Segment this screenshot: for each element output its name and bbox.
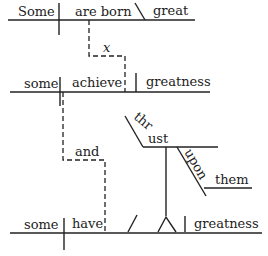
- clause-3-slash: [128, 215, 137, 232]
- connector-and-line: [63, 92, 105, 232]
- prep-object-label: them: [215, 172, 249, 187]
- connector-x-label: x: [103, 40, 111, 55]
- clause-3-object: greatness: [194, 216, 259, 231]
- connector-and: and: [63, 92, 105, 232]
- participle-label: ust: [148, 131, 169, 146]
- clause-1-subject: Some: [18, 4, 55, 19]
- clause-2-object: greatness: [146, 74, 211, 89]
- clause-1-complement-divider: [135, 3, 145, 20]
- preposition-label: upon: [181, 146, 211, 183]
- clause-3-verb: have: [72, 216, 103, 231]
- clause-3: some have greatness: [10, 215, 262, 250]
- participle-label-slanted: thr: [131, 109, 156, 134]
- clause-2-verb: achieve: [72, 75, 123, 90]
- participle-phrase: thr ust upon them: [125, 109, 252, 216]
- clause-3-fork: [158, 217, 176, 232]
- clause-3-subject: some: [24, 217, 59, 232]
- connector-and-label: and: [75, 144, 99, 159]
- clause-1-complement: great: [153, 3, 189, 18]
- sentence-diagram: Some are born great x some achieve great…: [0, 0, 268, 256]
- clause-2-subject: some: [24, 76, 59, 91]
- clause-1: Some are born great: [8, 3, 195, 35]
- clause-1-verb: are born: [75, 4, 132, 19]
- clause-2: some achieve greatness: [10, 73, 211, 106]
